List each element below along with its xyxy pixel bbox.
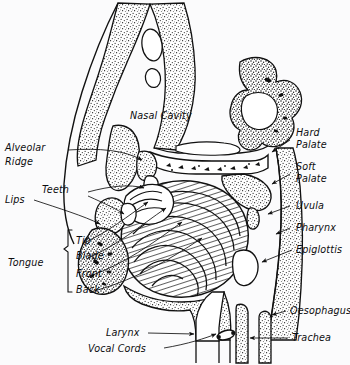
anatomy-diagram: Nasal Cavity Alveolar Ridge Lips Teeth T… [0, 0, 350, 365]
label-blade: Blade [76, 250, 104, 261]
label-front: Front [76, 268, 103, 279]
label-pharynx: Pharynx [296, 222, 336, 233]
oesophagus [259, 311, 271, 363]
label-oesophagus: Oesophagus [290, 305, 350, 316]
label-nasal-cavity: Nasal Cavity [130, 110, 192, 121]
epiglottis [233, 250, 259, 286]
label-teeth: Teeth [42, 184, 69, 195]
label-tongue: Tongue [8, 257, 44, 268]
sphenoid-sinus-void [241, 93, 277, 130]
label-alveolar-ridge-line1: Alveolar [4, 142, 46, 153]
label-alveolar-ridge-line2: Ridge [5, 156, 33, 167]
label-vocal-cords: Vocal Cords [88, 343, 146, 354]
lower-teeth [121, 203, 136, 225]
label-tip: Tip [76, 235, 91, 246]
label-soft-palate-line1: Soft [296, 161, 317, 172]
label-hard-palate-line1: Hard [296, 127, 320, 138]
label-epiglottis: Epiglottis [296, 244, 342, 255]
trachea [236, 304, 248, 363]
label-uvula: Uvula [296, 200, 324, 211]
label-lips: Lips [5, 194, 25, 205]
label-larynx: Larynx [106, 327, 140, 338]
label-soft-palate-line2: Palate [296, 173, 327, 184]
label-back: Back [76, 284, 100, 295]
uvula [247, 208, 259, 229]
inferior-turbinate [176, 142, 240, 155]
vocal-cord-node-right [231, 331, 235, 335]
label-hard-palate-line2: Palate [296, 139, 327, 150]
label-trachea: Trachea [292, 332, 331, 343]
vocal-cord-node-left [217, 335, 221, 339]
